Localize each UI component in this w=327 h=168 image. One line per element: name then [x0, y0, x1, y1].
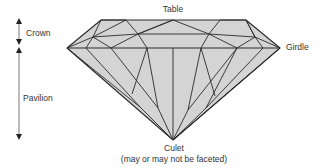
table-label: Table	[163, 5, 183, 14]
pavilion-label: Pavilion	[23, 94, 53, 103]
pavilion-dimension-arrow	[16, 47, 22, 140]
girdle-label: Girdle	[286, 43, 309, 52]
crown-dimension-arrow	[16, 18, 22, 45]
culet-label: Culet	[164, 144, 184, 153]
culet-note: (may or may not be faceted)	[121, 155, 227, 164]
crown-label: Crown	[26, 29, 51, 38]
diamond-outline	[67, 20, 280, 140]
